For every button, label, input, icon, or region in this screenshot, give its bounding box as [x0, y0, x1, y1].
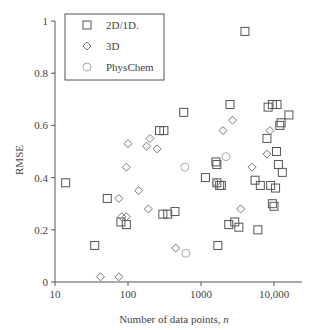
diamond-marker	[237, 205, 245, 213]
circle-marker	[222, 153, 230, 161]
y-axis-label: RMSE	[13, 145, 25, 175]
diamond-marker	[248, 163, 256, 171]
diamond-marker	[228, 116, 236, 124]
diamond-marker	[219, 127, 227, 135]
diamond-marker	[266, 127, 274, 135]
diamond-marker	[124, 140, 132, 148]
diamond-marker	[115, 194, 123, 202]
x-axis-label-variable: n	[223, 313, 229, 325]
diamond-marker	[153, 145, 161, 153]
legend: 2D/1D. 3D PhysChem	[65, 14, 164, 80]
diamond-marker	[96, 273, 104, 281]
diamond-marker	[115, 273, 123, 281]
y-tick-label: 0.2	[34, 224, 48, 236]
x-tick-label: 100	[120, 288, 137, 300]
square-marker	[241, 27, 249, 35]
legend-item-2d1d: 2D/1D.	[83, 19, 139, 31]
square-marker	[263, 134, 271, 142]
square-marker	[214, 241, 222, 249]
square-marker	[267, 181, 275, 189]
square-marker	[226, 101, 234, 109]
square-marker	[103, 194, 111, 202]
square-marker	[273, 101, 281, 109]
square-marker	[159, 210, 167, 218]
diamond-marker	[144, 205, 152, 213]
legend-label: 3D	[106, 40, 120, 52]
x-axis-label: Number of data points, n	[119, 313, 229, 325]
square-marker	[91, 241, 99, 249]
x-tick-label: 10,000	[259, 288, 290, 300]
series-physchem	[181, 153, 230, 258]
square-marker	[272, 184, 280, 192]
diamond-marker	[143, 142, 151, 150]
scatter-chart: 00.20.40.60.8110100100010,000 2D/1D. 3D …	[0, 0, 312, 330]
legend-label: 2D/1D.	[106, 19, 139, 31]
square-marker	[225, 221, 233, 229]
square-marker	[201, 174, 209, 182]
square-marker	[256, 181, 264, 189]
square-marker	[254, 226, 262, 234]
square-marker	[272, 148, 280, 156]
square-marker	[62, 179, 70, 187]
diamond-marker	[135, 187, 143, 195]
x-tick-label: 10	[50, 288, 62, 300]
circle-marker	[182, 249, 190, 257]
diamond-marker	[172, 244, 180, 252]
square-marker	[274, 161, 282, 169]
x-axis-label-text: Number of data points,	[119, 313, 223, 325]
circle-marker	[181, 163, 189, 171]
y-tick-label: 1	[43, 15, 49, 27]
square-marker	[285, 111, 293, 119]
legend-label: PhysChem	[106, 61, 154, 73]
diamond-marker	[146, 134, 154, 142]
square-marker	[251, 176, 259, 184]
y-tick-label: 0.8	[34, 67, 48, 79]
square-marker	[122, 221, 130, 229]
x-tick-label: 1000	[190, 288, 213, 300]
y-tick-label: 0.6	[34, 119, 48, 131]
diamond-marker	[263, 150, 271, 158]
diamond-marker	[122, 163, 130, 171]
square-marker	[180, 108, 188, 116]
square-marker	[278, 168, 286, 176]
series-3d	[96, 116, 273, 281]
y-tick-label: 0	[43, 276, 49, 288]
y-tick-label: 0.4	[34, 172, 48, 184]
